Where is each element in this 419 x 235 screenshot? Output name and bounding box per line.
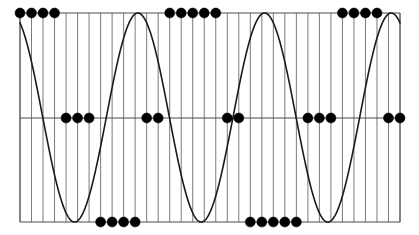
sample-marker [314,113,324,123]
sample-marker [142,113,152,123]
sample-marker [15,8,25,18]
sample-marker [360,8,370,18]
sample-marker [73,113,83,123]
sample-marker [165,8,175,18]
sample-marker [291,217,301,227]
quantized-sine-plot [0,0,419,235]
sample-marker [383,113,393,123]
figure-root [0,0,419,235]
sample-marker [96,217,106,227]
sample-marker [211,8,221,18]
sample-marker [222,113,232,123]
sample-marker [27,8,37,18]
sample-marker [199,8,209,18]
sample-marker [50,8,60,18]
sample-marker [234,113,244,123]
sample-marker [372,8,382,18]
sample-marker [153,113,163,123]
sample-marker [130,217,140,227]
sample-marker [245,217,255,227]
sample-marker [395,113,405,123]
sample-marker [38,8,48,18]
sample-marker [119,217,129,227]
sample-marker [303,113,313,123]
sample-marker [176,8,186,18]
sample-marker [61,113,71,123]
sample-marker [257,217,267,227]
sample-marker [84,113,94,123]
sample-marker [188,8,198,18]
sample-marker [268,217,278,227]
sample-marker [337,8,347,18]
sample-marker [349,8,359,18]
sample-marker [326,113,336,123]
sample-marker [280,217,290,227]
sample-marker [107,217,117,227]
